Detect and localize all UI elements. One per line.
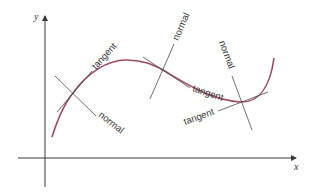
tangent-line-1 xyxy=(57,71,92,112)
tangent-label-1: tangent xyxy=(89,40,119,71)
tangent-label-2: tangent xyxy=(191,82,225,102)
normal-line-2 xyxy=(150,44,174,99)
normal-label-1: normal xyxy=(97,109,127,136)
tangent-line-3 xyxy=(218,92,268,111)
tangent-normal-diagram: y x tangent normal normal tangent normal… xyxy=(0,0,315,192)
y-axis-label: y xyxy=(33,11,39,22)
x-axis-label: x xyxy=(293,161,299,172)
normal-label-2: normal xyxy=(170,11,192,42)
tangent-label-3: tangent xyxy=(182,106,216,127)
normal-label-3: normal xyxy=(217,39,237,70)
normal-line-3 xyxy=(232,76,252,130)
normal-line-1 xyxy=(55,76,96,116)
